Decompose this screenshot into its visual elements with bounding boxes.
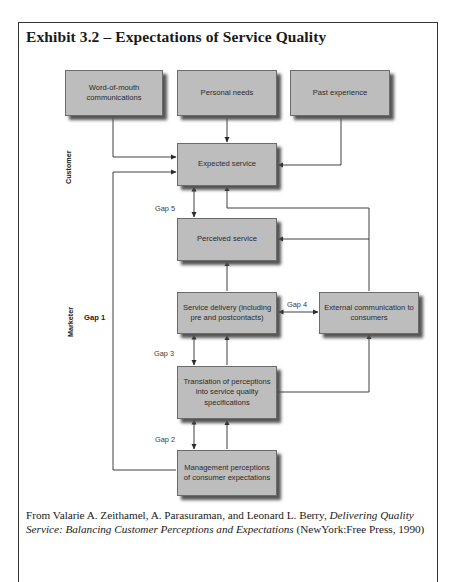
customer-label: Customer (64, 150, 73, 184)
box-expected-service: Expected service (177, 143, 277, 186)
box-external-communication: External communication to consumers (319, 292, 419, 334)
source-caption: From Valarie A. Zeithamel, A. Parasurama… (26, 509, 436, 536)
gap1-label: Gap 1 (84, 313, 105, 322)
box-service-delivery: Service delivery (including pre and post… (177, 292, 277, 334)
box-translation: Translation of perceptions into service … (177, 366, 277, 419)
caption-prefix: From Valarie A. Zeithamel, A. Parasurama… (26, 509, 330, 521)
box-perceived-service: Perceived service (177, 218, 277, 261)
gap2-label: Gap 2 (155, 435, 175, 444)
caption-suffix: (NewYork:Free Press, 1990) (294, 523, 425, 535)
box-past-experience: Past experience (290, 70, 390, 116)
gap5-label: Gap 5 (155, 204, 175, 213)
gap3-label: Gap 3 (154, 349, 174, 358)
box-personal-needs: Personal needs (177, 70, 277, 116)
box-management-perceptions: Management perceptions of consumer expec… (177, 450, 277, 496)
marketer-label: Marketer (66, 307, 75, 337)
box-word-of-mouth: Word-of-mouth communications (65, 70, 163, 116)
gap4-label: Gap 4 (287, 300, 307, 309)
